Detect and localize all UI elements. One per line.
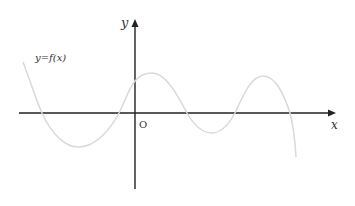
- function-graph: y x O y=f(x): [0, 0, 355, 206]
- x-axis-arrow-icon: [328, 110, 336, 117]
- y-axis-label: y: [120, 15, 129, 30]
- y-axis-arrow-icon: [132, 19, 139, 27]
- origin-label: O: [139, 119, 147, 130]
- function-label: y=f(x): [34, 52, 66, 63]
- function-curve: [23, 62, 296, 157]
- x-axis-label: x: [331, 118, 338, 132]
